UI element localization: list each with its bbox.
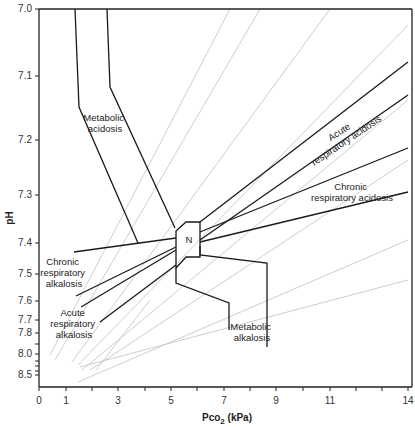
normal-region-label: N xyxy=(186,234,193,245)
y-tick-label: 7.1 xyxy=(18,70,32,81)
acid-base-nomogram: 7.0 7.1 7.2 7.3 7.4 7.5 7.6 7.7 7.8 8.0 … xyxy=(0,0,415,427)
y-tick-label: 7.7 xyxy=(18,314,32,325)
y-tick-label: 7.3 xyxy=(18,189,32,200)
x-tick-label: 14 xyxy=(402,395,414,406)
acute-respiratory-alkalosis-label: Acute respiratory alkalosis xyxy=(50,307,98,340)
y-tick-labels: 7.0 7.1 7.2 7.3 7.4 7.5 7.6 7.7 7.8 8.0 … xyxy=(18,3,32,380)
chronic-respiratory-acidosis-label: Chronic respiratory acidosis xyxy=(311,181,393,203)
y-tick-label: 8.5 xyxy=(18,369,32,380)
x-tick-label: 3 xyxy=(115,395,121,406)
y-tick-label: 7.2 xyxy=(18,134,32,145)
x-tick-label: 9 xyxy=(273,395,279,406)
x-tick-label: 0 xyxy=(36,395,42,406)
metabolic-alkalosis-label: Metabolic alkalosis xyxy=(230,321,273,343)
x-tick-labels: 0 1 3 5 7 9 11 14 xyxy=(36,395,414,406)
y-tick-label: 7.5 xyxy=(18,268,32,279)
y-tick-label: 8.0 xyxy=(18,348,32,359)
x-tick-label: 5 xyxy=(168,395,174,406)
chronic-respiratory-alkalosis-label: Chronic respiratory alkalosis xyxy=(40,256,88,289)
x-tick-label: 11 xyxy=(325,395,336,406)
x-axis-title: Pco2 (kPa) xyxy=(202,412,252,426)
y-tick-label: 7.8 xyxy=(18,327,32,338)
metabolic-acidosis-label: Metabolic acidosis xyxy=(83,112,126,134)
y-tick-label: 7.4 xyxy=(18,237,32,248)
y-axis-title: pH xyxy=(4,211,15,224)
region-boundaries xyxy=(74,9,408,347)
acute-respiratory-acidosis-label: Acute respiratory acidosis xyxy=(303,104,383,168)
x-tick-label: 1 xyxy=(63,395,69,406)
x-tick-label: 7 xyxy=(221,395,227,406)
y-tick-label: 7.6 xyxy=(18,295,32,306)
y-tick-label: 7.0 xyxy=(18,3,32,14)
